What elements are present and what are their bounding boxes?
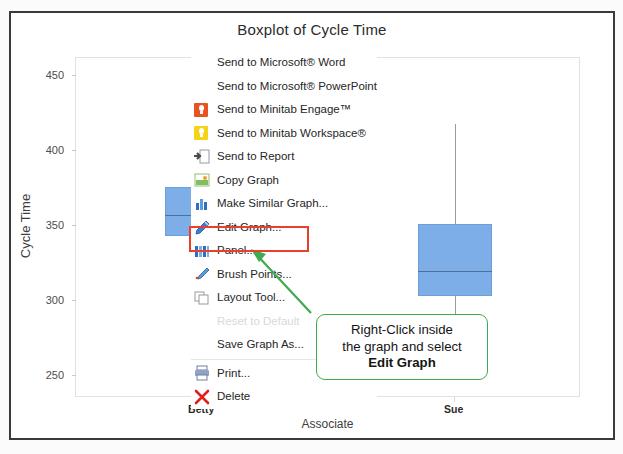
delete-x-icon [193, 389, 211, 405]
callout-line-3: Edit Graph [368, 355, 435, 370]
menu-item-delete[interactable]: Delete [191, 385, 377, 409]
callout-line-2: the graph and select [342, 339, 462, 354]
brush-points-icon [193, 266, 211, 282]
boxplot-box[interactable] [418, 224, 492, 296]
y-tick-mark [72, 225, 76, 226]
y-tick-mark [72, 300, 76, 301]
menu-item-send-to-minitab-workspace[interactable]: Send to Minitab Workspace® [191, 122, 377, 146]
y-tick-mark [72, 150, 76, 151]
menu-item-label: Send to Report [217, 151, 294, 163]
x-tick-label-sue: Sue [444, 403, 463, 415]
print-icon [193, 365, 211, 381]
send-to-report-icon [193, 149, 211, 165]
menu-item-label: Make Similar Graph... [217, 198, 328, 210]
menu-item-send-to-microsoft-powerpoint[interactable]: Send to Microsoft® PowerPoint [191, 75, 377, 99]
menu-item-label: Reset to Default [217, 316, 299, 328]
menu-item-layout-tool[interactable]: Layout Tool... [191, 286, 377, 310]
menu-item-label: Send to Minitab Workspace® [217, 128, 366, 140]
menu-item-label: Edit Graph... [217, 222, 282, 234]
y-tick-label: 350 [46, 219, 71, 231]
menu-item-make-similar-graph[interactable]: Make Similar Graph... [191, 192, 377, 216]
graph-title: Boxplot of Cycle Time [11, 21, 613, 38]
menu-item-label: Send to Minitab Engage™ [217, 104, 351, 116]
y-tick-mark [72, 75, 76, 76]
menu-item-label: Layout Tool... [217, 292, 285, 304]
menu-item-send-to-microsoft-word[interactable]: Send to Microsoft® Word [191, 51, 377, 75]
boxplot-median-line [418, 271, 492, 272]
y-axis-label: Cycle Time [18, 193, 33, 257]
callout-box: Right-Click inside the graph and select … [316, 314, 488, 380]
menu-item-label: Send to Microsoft® Word [217, 57, 345, 69]
panel-icon [193, 243, 211, 259]
y-tick-label: 250 [46, 369, 71, 381]
edit-graph-pencil-icon [193, 219, 211, 235]
minitab-workspace-icon [193, 125, 211, 141]
menu-item-label: Brush Points... [217, 269, 292, 281]
callout-line-1: Right-Click inside [351, 322, 453, 337]
menu-item-panel[interactable]: Panel... [191, 239, 377, 263]
menu-item-label: Panel... [217, 245, 256, 257]
screenshot-root: Boxplot of Cycle Time Cycle Time 2503003… [0, 0, 623, 454]
minitab-engage-icon [193, 102, 211, 118]
y-tick-label: 300 [46, 294, 71, 306]
menu-item-edit-graph[interactable]: Edit Graph... [191, 216, 377, 240]
menu-item-label: Copy Graph [217, 175, 279, 187]
copy-graph-icon [193, 172, 211, 188]
make-similar-graph-icon [193, 196, 211, 212]
y-tick-label: 450 [46, 69, 71, 81]
menu-item-label: Send to Microsoft® PowerPoint [217, 81, 377, 93]
y-tick-mark [72, 375, 76, 376]
y-tick-label: 400 [46, 144, 71, 156]
menu-item-label: Save Graph As... [217, 339, 304, 351]
menu-item-label: Delete [217, 391, 250, 403]
x-tick-mark [454, 397, 455, 402]
menu-item-send-to-minitab-engage[interactable]: Send to Minitab Engage™ [191, 98, 377, 122]
menu-item-brush-points[interactable]: Brush Points... [191, 263, 377, 287]
figure-frame: Boxplot of Cycle Time Cycle Time 2503003… [9, 11, 615, 440]
layout-tool-icon [193, 290, 211, 306]
callout-text: Right-Click inside the graph and select … [342, 322, 462, 372]
menu-item-label: Print... [217, 368, 250, 380]
menu-item-copy-graph[interactable]: Copy Graph [191, 169, 377, 193]
x-axis-label: Associate [75, 417, 580, 431]
menu-item-send-to-report[interactable]: Send to Report [191, 145, 377, 169]
